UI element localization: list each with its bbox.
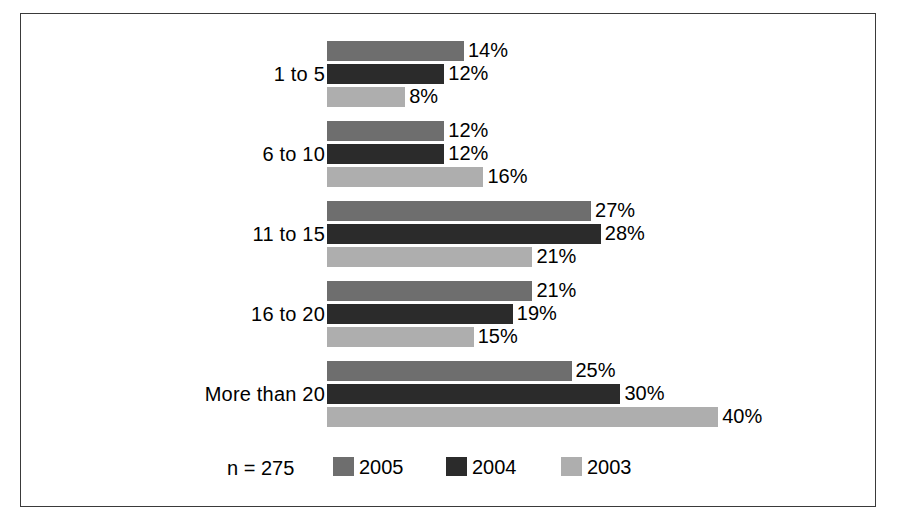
bar-row: 21%: [327, 247, 877, 267]
legend-label: 2005: [359, 455, 404, 479]
bar-row: 27%: [327, 201, 877, 221]
bar-value-label: 12%: [448, 119, 488, 141]
bar-row: 19%: [327, 304, 877, 324]
category-label: More than 20: [205, 383, 325, 405]
bar-row: 28%: [327, 224, 877, 244]
bar-row: 12%: [327, 144, 877, 164]
bar-2005-more-than-20[interactable]: [327, 361, 572, 381]
chart-legend: n = 275 200520042003: [21, 454, 877, 488]
bar-row: 12%: [327, 64, 877, 84]
bar-value-label: 8%: [409, 85, 438, 107]
legend-swatch-2003: [561, 457, 582, 476]
bar-group: More than 2025%30%40%: [21, 361, 877, 427]
bar-group: 11 to 1527%28%21%: [21, 201, 877, 267]
bar-2004-16-to-20[interactable]: [327, 304, 513, 324]
bar-2003-11-to-15[interactable]: [327, 247, 532, 267]
bar-value-label: 40%: [722, 405, 762, 427]
bar-row: 12%: [327, 121, 877, 141]
bar-2005-1-to-5[interactable]: [327, 41, 464, 61]
legend-label: 2003: [587, 455, 632, 479]
legend-label: 2004: [472, 455, 517, 479]
plot-area: 1 to 514%12%8%6 to 1012%12%16%11 to 1527…: [21, 14, 877, 508]
bar-2005-6-to-10[interactable]: [327, 121, 444, 141]
bar-value-label: 16%: [487, 165, 527, 187]
bar-2005-11-to-15[interactable]: [327, 201, 591, 221]
bar-group: 6 to 1012%12%16%: [21, 121, 877, 187]
chart-figure-frame: 1 to 514%12%8%6 to 1012%12%16%11 to 1527…: [20, 13, 876, 507]
bar-2005-16-to-20[interactable]: [327, 281, 532, 301]
bar-2003-6-to-10[interactable]: [327, 167, 483, 187]
sample-size-annotation: n = 275: [227, 456, 294, 480]
category-label: 6 to 10: [262, 143, 325, 165]
bar-value-label: 12%: [448, 142, 488, 164]
bar-row: 40%: [327, 407, 877, 427]
bar-row: 8%: [327, 87, 877, 107]
bar-2003-16-to-20[interactable]: [327, 327, 474, 347]
category-label: 11 to 15: [253, 223, 325, 245]
bar-group: 1 to 514%12%8%: [21, 41, 877, 107]
bar-value-label: 12%: [448, 62, 488, 84]
bar-2003-1-to-5[interactable]: [327, 87, 405, 107]
category-label: 1 to 5: [274, 63, 325, 85]
legend-swatch-2004: [446, 457, 467, 476]
legend-swatch-2005: [333, 457, 354, 476]
bar-row: 25%: [327, 361, 877, 381]
bar-2004-11-to-15[interactable]: [327, 224, 601, 244]
bar-row: 16%: [327, 167, 877, 187]
bar-row: 14%: [327, 41, 877, 61]
bar-value-label: 21%: [536, 279, 576, 301]
bar-row: 30%: [327, 384, 877, 404]
bar-2003-more-than-20[interactable]: [327, 407, 718, 427]
bar-value-label: 27%: [595, 199, 635, 221]
bar-value-label: 15%: [478, 325, 518, 347]
category-label: 16 to 20: [251, 303, 325, 325]
bar-row: 15%: [327, 327, 877, 347]
bar-2004-1-to-5[interactable]: [327, 64, 444, 84]
bar-value-label: 28%: [605, 222, 645, 244]
bar-2004-6-to-10[interactable]: [327, 144, 444, 164]
bar-2004-more-than-20[interactable]: [327, 384, 620, 404]
bar-group: 16 to 2021%19%15%: [21, 281, 877, 347]
bar-value-label: 19%: [517, 302, 557, 324]
bar-value-label: 25%: [576, 359, 616, 381]
bar-value-label: 14%: [468, 39, 508, 61]
bar-value-label: 30%: [624, 382, 664, 404]
bar-row: 21%: [327, 281, 877, 301]
bar-value-label: 21%: [536, 245, 576, 267]
